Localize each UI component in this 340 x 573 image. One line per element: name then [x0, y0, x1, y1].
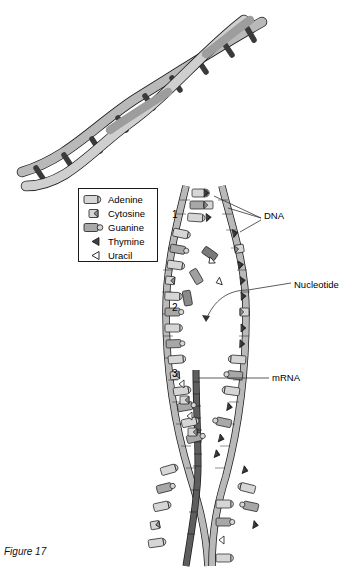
figure-caption: Figure 17: [4, 546, 46, 557]
legend-item-cytosine: Cytosine: [83, 206, 154, 220]
legend-box: Adenine Cytosine Guanine Thymine Uracil: [78, 188, 158, 262]
callout-label-dna: DNA: [264, 210, 284, 221]
legend-label-thymine: Thymine: [108, 236, 144, 247]
legend-label-guanine: Guanine: [108, 222, 144, 233]
adenine-base-icon: [83, 194, 105, 205]
cytosine-base-icon: [83, 208, 105, 219]
thymine-base-icon: [83, 236, 105, 247]
step-marker-1: 1: [172, 209, 178, 220]
free-nucleotides: [182, 246, 222, 306]
legend-label-adenine: Adenine: [108, 194, 143, 205]
legend-label-uracil: Uracil: [108, 250, 132, 261]
guanine-base-icon: [83, 222, 105, 233]
legend-item-thymine: Thymine: [83, 234, 154, 248]
legend-item-adenine: Adenine: [83, 192, 154, 206]
uracil-base-icon: [83, 250, 105, 261]
legend-label-cytosine: Cytosine: [108, 208, 145, 219]
dna-double-helix: [22, 20, 262, 186]
step-marker-3: 3: [172, 368, 178, 379]
base-pairs-intact-top: [187, 189, 213, 222]
legend-item-uracil: Uracil: [83, 248, 154, 262]
callout-label-nucleotide: Nucleotide: [294, 279, 339, 290]
step-marker-2: 2: [172, 302, 178, 313]
transcription-figure: [0, 0, 340, 573]
callout-label-mrna: mRNA: [272, 372, 300, 383]
legend-item-guanine: Guanine: [83, 220, 154, 234]
